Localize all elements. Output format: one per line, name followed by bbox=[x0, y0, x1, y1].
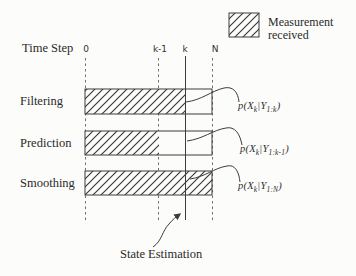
formula-prediction-post: ) bbox=[285, 143, 289, 154]
tick-label-N: N bbox=[212, 44, 219, 54]
bar-filtering bbox=[85, 89, 212, 114]
row-label-filtering: Filtering bbox=[20, 95, 63, 108]
figure-canvas: Measurement received Time Step 0 k-1 k N… bbox=[0, 0, 356, 276]
formula-filtering: p(Xk|Y1:k) bbox=[238, 100, 280, 114]
legend-label: Measurement received bbox=[268, 16, 333, 41]
formula-smoothing-post: ) bbox=[278, 180, 282, 191]
hatch-swatch-icon bbox=[229, 13, 259, 37]
formula-filtering-pre: p(X bbox=[238, 100, 254, 111]
formula-smoothing: p(Xk|Y1:N) bbox=[238, 180, 282, 194]
tick-label-k-minus-1: k-1 bbox=[153, 44, 167, 54]
formula-prediction-sub2: 1:k-1 bbox=[268, 148, 285, 157]
timeline-title: Time Step bbox=[22, 42, 73, 55]
row-label-prediction: Prediction bbox=[20, 137, 71, 150]
tick-label-0: 0 bbox=[83, 44, 89, 54]
bar-prediction bbox=[85, 131, 212, 155]
tick-label-k: k bbox=[182, 44, 187, 54]
state-estimation-label: State Estimation bbox=[120, 248, 202, 261]
formula-smoothing-pre: p(X bbox=[238, 180, 254, 191]
legend-label-line2: received bbox=[268, 29, 333, 42]
row-label-smoothing: Smoothing bbox=[20, 177, 75, 190]
formula-filtering-sub2: 1:k bbox=[266, 105, 276, 114]
state-estimation-arrow bbox=[153, 214, 180, 247]
legend-label-line1: Measurement bbox=[268, 16, 333, 29]
formula-prediction: p(Xk|Y1:k-1) bbox=[240, 143, 289, 157]
formula-prediction-pre: p(X bbox=[240, 143, 256, 154]
bar-smoothing bbox=[85, 171, 212, 195]
formula-filtering-post: ) bbox=[277, 100, 281, 111]
formula-smoothing-sub2: 1:N bbox=[266, 185, 278, 194]
